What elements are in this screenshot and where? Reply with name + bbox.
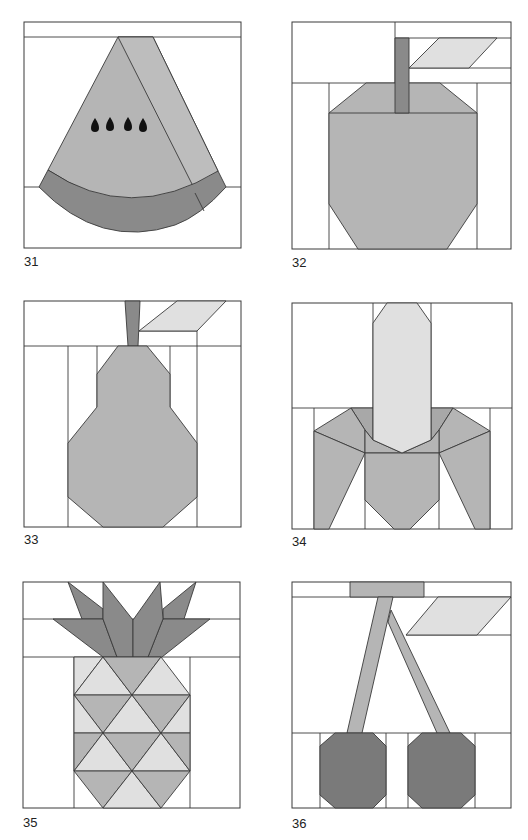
apple-stem xyxy=(395,38,409,113)
block-number-36: 36 xyxy=(292,816,306,831)
cherry-left xyxy=(320,733,386,808)
block-36-cherries xyxy=(292,582,511,808)
quilt-block-sheet xyxy=(0,0,528,840)
block-33-pear xyxy=(24,301,241,527)
block-35-pineapple xyxy=(23,582,240,808)
cherry-right xyxy=(408,733,475,808)
pear-stem xyxy=(125,301,140,346)
block-34-banana xyxy=(292,303,512,529)
cherry-stem-bar xyxy=(350,582,424,597)
block-number-31: 31 xyxy=(24,254,38,269)
block-32-apple xyxy=(292,22,511,249)
block-number-34: 34 xyxy=(292,534,306,549)
block-number-35: 35 xyxy=(23,815,37,830)
block-number-32: 32 xyxy=(292,255,306,270)
banana-fruit xyxy=(373,303,431,453)
pineapple-body xyxy=(74,657,190,808)
block-number-33: 33 xyxy=(24,532,38,547)
block-31-watermelon xyxy=(24,22,241,248)
